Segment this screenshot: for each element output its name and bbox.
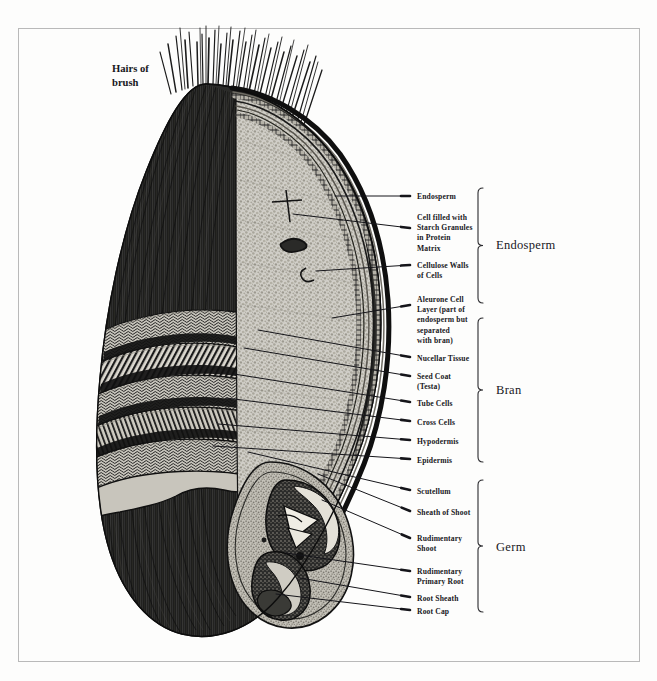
leader-tip-scutellum xyxy=(401,488,410,490)
leader-tip-epidermis xyxy=(401,458,410,459)
callout-label-cellulose-walls: Cellulose Walls of Cells xyxy=(417,261,469,281)
callout-label-starch-granules: Cell filled with Starch Granules in Prot… xyxy=(417,213,472,254)
callout-label-aleurone-layer: Aleurone Cell Layer (part of endosperm b… xyxy=(417,295,468,346)
callout-label-sheath-of-shoot: Sheath of Shoot xyxy=(417,508,470,518)
leader-tip-tube-cells xyxy=(401,401,410,402)
callout-label-rudimentary-root: Rudimentary Primary Root xyxy=(417,567,464,587)
figure-page: Hairs of brush EndospermCell filled with… xyxy=(0,0,657,681)
group-brackets xyxy=(478,188,483,612)
leader-tip-aleurone-layer xyxy=(401,305,410,306)
leader-tip-rudimentary-shoot xyxy=(402,534,410,538)
callout-label-endosperm: Endosperm xyxy=(417,192,456,202)
callout-label-rudimentary-shoot: Rudimentary Shoot xyxy=(417,534,462,554)
leader-tip-seed-coat xyxy=(401,375,410,376)
leader-tip-sheath-of-shoot xyxy=(402,508,410,511)
callout-label-cross-cells: Cross Cells xyxy=(417,418,455,428)
callout-label-scutellum: Scutellum xyxy=(417,487,451,497)
leader-tip-hypodermis xyxy=(401,439,410,440)
leader-tip-nucellar-tissue xyxy=(401,355,410,357)
leader-tip-cellulose-walls xyxy=(401,265,410,266)
callout-label-hypodermis: Hypodermis xyxy=(417,437,459,447)
callout-label-tube-cells: Tube Cells xyxy=(417,399,453,409)
leader-tip-root-sheath xyxy=(401,595,410,597)
group-label-germ-group: Germ xyxy=(496,540,526,555)
leader-tip-starch-granules xyxy=(401,227,410,228)
bracket-germ-group xyxy=(478,480,483,612)
callout-label-seed-coat: Seed Coat (Testa) xyxy=(417,372,451,392)
group-label-endosperm-group: Endosperm xyxy=(496,238,556,253)
callout-label-epidermis: Epidermis xyxy=(417,456,452,466)
bracket-endosperm-group xyxy=(478,188,483,303)
callout-label-root-sheath: Root Sheath xyxy=(417,594,459,604)
wheat-kernel-plate xyxy=(0,0,657,681)
callout-label-root-cap: Root Cap xyxy=(417,607,449,617)
bracket-bran-group xyxy=(478,318,483,462)
callout-label-nucellar-tissue: Nucellar Tissue xyxy=(417,354,469,364)
hairs-of-brush-label: Hairs of brush xyxy=(112,62,149,90)
group-label-bran-group: Bran xyxy=(496,383,522,398)
leader-tip-cross-cells xyxy=(401,420,410,421)
leader-tip-rudimentary-root xyxy=(401,570,410,571)
leader-tip-root-cap xyxy=(401,609,410,610)
